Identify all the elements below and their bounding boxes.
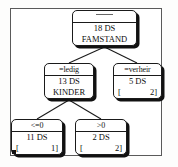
node-verheir-body: 5 DS [ 2] <box>114 76 161 98</box>
node-verheir-bracket: [ 2] <box>114 87 161 98</box>
diagram-canvas: 18 DS FAMSTAND =ledig 13 DS KINDER =verh… <box>0 0 178 167</box>
tree-node-verheir[interactable]: =verheir 5 DS [ 2] <box>113 63 162 99</box>
node-root-label: FAMSTAND <box>73 34 136 45</box>
node-gt0-body: 2 DS [ 2] <box>76 132 126 154</box>
node-verheir-bracket-right: 2] <box>150 87 157 98</box>
node-verheir-count: 5 DS <box>114 76 161 87</box>
node-gt0-bracket: [ 2] <box>76 143 126 154</box>
node-ledig-body: 13 DS KINDER <box>45 76 93 98</box>
node-le0-bracket-right: 1] <box>51 143 58 154</box>
node-verheir-bracket-left: [ <box>118 87 121 98</box>
node-gt0-bracket-left: [ <box>80 143 83 154</box>
node-le0-bracket: [ 1] <box>12 143 62 154</box>
edge-ledig-to-le0 <box>37 100 69 119</box>
tree-node-gt0[interactable]: >0 2 DS [ 2] <box>75 119 127 155</box>
node-gt0-header: >0 <box>76 120 126 132</box>
edge-root-to-verheir <box>105 47 138 63</box>
node-gt0-count: 2 DS <box>76 132 126 143</box>
node-ledig-label: KINDER <box>45 87 93 98</box>
node-le0-bracket-left: [ <box>16 143 19 154</box>
tree-node-root[interactable]: 18 DS FAMSTAND <box>72 10 137 46</box>
node-le0-count: 11 DS <box>12 132 62 143</box>
node-root-count: 18 DS <box>73 23 136 34</box>
node-verheir-header: =verheir <box>114 64 161 76</box>
node-le0-body: 11 DS [ 1] <box>12 132 62 154</box>
node-root-header <box>73 11 136 23</box>
node-ledig-header: =ledig <box>45 64 93 76</box>
node-le0-header: <=0 <box>12 120 62 132</box>
edge-ledig-to-gt0 <box>69 100 101 119</box>
node-ledig-count: 13 DS <box>45 76 93 87</box>
node-root-body: 18 DS FAMSTAND <box>73 23 136 45</box>
rule-dash-icon <box>96 14 113 16</box>
tree-node-le0[interactable]: <=0 11 DS [ 1] <box>11 119 63 155</box>
edge-root-to-ledig <box>69 47 105 63</box>
scan-artifact-speck <box>12 150 16 154</box>
tree-node-ledig[interactable]: =ledig 13 DS KINDER <box>44 63 94 99</box>
node-gt0-bracket-right: 2] <box>115 143 122 154</box>
